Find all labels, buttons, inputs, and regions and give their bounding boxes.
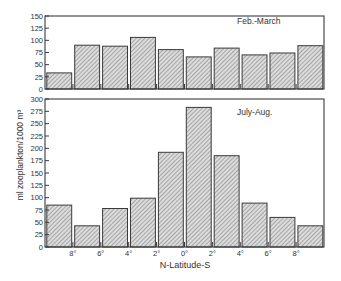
y-tick-label: 150 — [30, 12, 43, 21]
y-tick-label: 100 — [30, 36, 43, 45]
y-tick-label: 75 — [35, 206, 43, 215]
y-tick-label: 125 — [30, 24, 43, 33]
x-tick-label: 2° — [153, 249, 160, 258]
bar-46n — [103, 46, 128, 89]
y-tick-label: 275 — [30, 107, 43, 116]
y-tick-label: 150 — [30, 169, 43, 178]
x-axis-label: N-Latitude-S — [160, 260, 211, 270]
y-axis-label: ml zooplankton/1000 m³ — [15, 109, 25, 200]
bar-24n — [131, 198, 156, 247]
y-tick-label: 50 — [35, 60, 43, 69]
x-tick-label: 8° — [293, 249, 300, 258]
y-tick-label: 100 — [30, 193, 43, 202]
y-tick-label: 300 — [30, 95, 43, 104]
bar-810n — [47, 205, 72, 247]
y-tick-label: 175 — [30, 156, 43, 165]
panel-label-july-aug: July-Aug. — [237, 107, 272, 117]
bar-02s — [186, 57, 211, 89]
bar-02s — [186, 107, 211, 247]
bottom-panel-july-aug: 02550751001251501752002252502753008°6°4°… — [30, 95, 324, 258]
bar-68n — [75, 226, 100, 247]
bar-24n — [131, 37, 156, 89]
zooplankton-bar-figure: 0255075100125150 02550751001251501752002… — [0, 0, 341, 281]
y-tick-label: 250 — [30, 119, 43, 128]
panel-label-feb-march: Feb.-March — [237, 16, 281, 26]
bar-810s — [298, 46, 323, 89]
x-tick-label: 2° — [209, 249, 216, 258]
bar-24s — [214, 48, 239, 89]
bar-46s — [242, 203, 267, 247]
bar-46s — [242, 55, 267, 89]
bar-68n — [75, 45, 100, 89]
x-tick-label: 0° — [181, 249, 188, 258]
y-tick-label: 225 — [30, 132, 43, 141]
y-tick-label: 50 — [35, 218, 43, 227]
x-tick-label: 6° — [265, 249, 272, 258]
y-tick-label: 125 — [30, 181, 43, 190]
chart-canvas: 0255075100125150 02550751001251501752002… — [0, 0, 341, 281]
bar-68s — [270, 53, 295, 89]
bar-02n — [158, 50, 183, 89]
bar-810s — [298, 226, 323, 247]
y-tick-label: 200 — [30, 144, 43, 153]
y-tick-label: 25 — [35, 230, 43, 239]
bar-02n — [158, 152, 183, 247]
bar-810n — [47, 73, 72, 89]
x-tick-label: 6° — [97, 249, 104, 258]
bar-46n — [103, 209, 128, 248]
x-tick-label: 4° — [125, 249, 132, 258]
x-tick-label: 8° — [69, 249, 76, 258]
bar-68s — [270, 217, 295, 247]
bar-24s — [214, 156, 239, 247]
y-tick-label: 25 — [35, 73, 43, 82]
y-tick-label: 0 — [39, 243, 43, 252]
x-tick-label: 4° — [237, 249, 244, 258]
y-tick-label: 75 — [35, 48, 43, 57]
y-tick-label: 0 — [39, 85, 43, 94]
